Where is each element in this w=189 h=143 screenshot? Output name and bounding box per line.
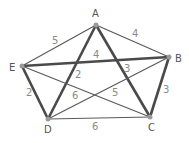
node-b <box>167 55 172 60</box>
edge-weight-e-d: 2 <box>26 87 32 98</box>
weighted-graph-diagram: 5442323656 ABCDE <box>0 0 189 143</box>
edge-weight-b-c: 3 <box>163 84 169 95</box>
edge-d-b <box>48 57 169 119</box>
graph-edges <box>22 25 169 119</box>
edge-weight-a-d: 2 <box>75 69 81 80</box>
node-c <box>148 115 153 120</box>
edge-weight-e-b: 4 <box>93 49 99 60</box>
edge-weight-e-c: 6 <box>72 90 78 101</box>
edge-d-c <box>48 117 150 119</box>
node-e <box>20 64 25 69</box>
node-label-c: C <box>148 122 155 133</box>
edge-weight-a-b: 4 <box>132 28 138 39</box>
node-label-d: D <box>44 124 52 135</box>
edge-weight-d-b: 5 <box>112 87 118 98</box>
node-a <box>94 23 99 28</box>
node-label-a: A <box>92 8 99 19</box>
node-d <box>46 117 51 122</box>
edge-weight-a-c: 3 <box>124 63 130 74</box>
edge-weight-d-c: 6 <box>92 121 98 132</box>
edge-e-c <box>22 66 150 117</box>
edge-weight-a-e: 5 <box>52 35 58 46</box>
node-label-b: B <box>175 53 182 64</box>
node-label-e: E <box>9 62 15 73</box>
